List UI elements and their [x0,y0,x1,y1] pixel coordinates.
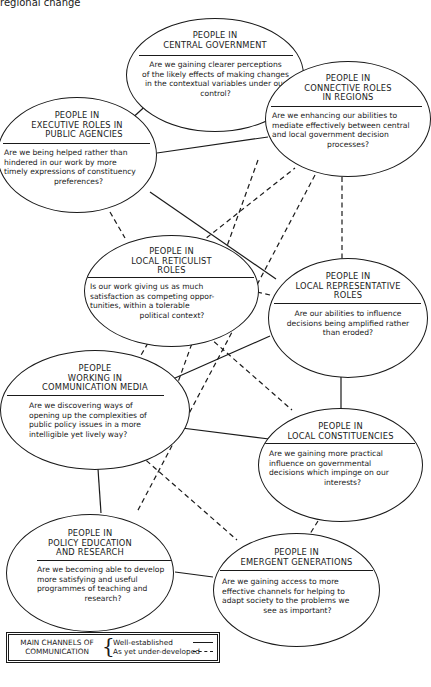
legend-heading-line: COMMUNICATION [13,647,101,656]
link-media-emergent [140,455,237,540]
legend: MAIN CHANNELS OF COMMUNICATION { Well-es… [8,634,218,661]
divider [271,106,422,107]
node-question-line: mediate effectively between central [272,121,424,131]
node-local-reticulist: PEOPLE IN LOCAL RETICULIST ROLES Is our … [84,235,259,347]
node-title-line: PUBLIC AGENCIES [0,130,156,140]
node-question-line: processes? [272,140,424,150]
node-executive-roles: PEOPLE IN EXECUTIVE ROLES IN PUBLIC AGEN… [0,97,157,213]
node-question-line: Is our work giving us as much [90,282,254,292]
node-question-line: intelligible yet lively way? [29,430,181,440]
node-title-line: COMMUNICATION MEDIA [1,383,189,393]
node-question-line: hindered in our work by more [4,158,153,168]
node-title-line: LOCAL CONSTITUENCIES [259,432,422,442]
node-question-line: and local government decision [272,130,424,140]
legend-heading-line: MAIN CHANNELS OF [13,638,101,647]
node-question-line: Are we enhancing our abilities to [272,111,424,121]
node-question-line: Are we gaining access to more [222,577,373,587]
node-policy-education: PEOPLE IN POLICY EDUCATION AND RESEARCH … [6,514,174,632]
node-title-line: EMERGENT GENERATIONS [214,558,379,568]
node-question-line: opening up the complexities of [29,411,181,421]
node-question-line: programmes of teaching and [37,584,169,594]
node-question-line: public policy issues in a more [29,420,181,430]
link-media-education [98,469,101,513]
node-title-line: IN REGIONS [266,93,430,103]
node-local-representative: PEOPLE IN LOCAL REPRESENTATIVE ROLES Are… [268,258,428,378]
node-question-line: tunities, within a tolerable [90,301,254,311]
node-question-line: decisions being amplified rather [275,319,421,329]
node-question-line: satisfaction as competing oppor- [90,292,254,302]
node-question-line: research? [37,594,169,604]
node-question-line: see as important? [222,606,373,616]
divider [139,55,293,56]
node-question-line: decisions which impinge on our [269,468,416,478]
node-question-line: preferences? [4,177,153,187]
node-question-line: more satisfying and useful [37,575,169,585]
link-education-emergent [175,572,213,577]
node-question-line: adapt society to the problems we [222,596,373,606]
node-question-line: effective channels for helping to [222,587,373,597]
node-question-line: Are we being helped rather than [4,148,153,158]
legend-heading: MAIN CHANNELS OF COMMUNICATION [13,638,101,656]
node-question-line: influence on governmental [269,459,416,469]
node-connective-roles: PEOPLE IN CONNECTIVE ROLES IN REGIONS Ar… [265,61,431,177]
node-communication-media: PEOPLE WORKING IN COMMUNICATION MEDIA Ar… [0,350,190,470]
node-title-line: CENTRAL GOVERNMENT [127,41,303,51]
node-question-line: than eroded? [275,328,421,338]
legend-item-well-established: Well-established [113,638,173,647]
solid-line-sample-icon [193,642,213,643]
node-question-line: Are we discovering ways of [29,401,181,411]
node-question-line: Are we gaining clearer perceptions [131,60,300,70]
divider [274,303,421,304]
link-reticulist-connective [200,168,295,243]
link-executive-connective [157,137,268,153]
dashed-line-sample-icon [193,651,213,652]
node-local-constituencies: PEOPLE IN LOCAL CONSTITUENCIES Are we ga… [258,408,423,522]
divider [3,143,150,144]
node-question-line: interests? [269,478,416,488]
legend-item-under-developed: As yet under-developed [113,647,200,656]
node-question-line: timely expressions of constituency [4,167,153,177]
node-title-line: AND RESEARCH [7,548,173,558]
divider [220,570,373,571]
node-title-line: ROLES [269,291,427,301]
divider [87,277,254,278]
divider [37,560,171,561]
node-question-line: Are we becoming able to develop [37,565,169,575]
node-question-line: political context? [90,311,254,321]
node-title-line: ROLES [85,266,258,276]
node-question-line: Are we gaining more practical [269,449,416,459]
node-question-line: Are our abilities to influence [275,309,421,319]
node-emergent-generations: PEOPLE IN EMERGENT GENERATIONS Are we ga… [213,533,380,647]
divider [7,395,164,396]
link-executive-reticulist [110,212,125,238]
divider [265,443,415,444]
